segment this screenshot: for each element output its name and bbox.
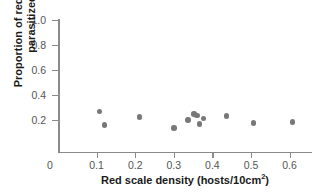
data-point: [137, 114, 143, 120]
data-point: [171, 125, 177, 131]
y-axis-title-line2: parasitized: [25, 0, 38, 98]
data-point: [185, 117, 191, 123]
data-point: [201, 116, 207, 122]
data-point: [290, 119, 296, 125]
x-axis-title-tail: ): [265, 174, 269, 186]
scatter-chart-figure: 0.20.40.60.81.0 0.10.20.30.40.50.6 0 Red…: [0, 0, 316, 193]
data-point: [194, 113, 200, 119]
data-point: [197, 121, 203, 127]
data-point: [97, 109, 103, 115]
y-axis-title: Proportion of red scales parasitized: [12, 0, 40, 98]
data-point: [102, 122, 108, 128]
data-point: [251, 120, 257, 126]
x-axis-title-base: Red scale density (hosts/10cm: [101, 174, 261, 186]
y-axis-title-line1: Proportion of red scales: [12, 0, 24, 87]
plot-area: [0, 0, 316, 193]
data-point: [224, 113, 230, 119]
x-axis-title: Red scale density (hosts/10cm2): [58, 174, 312, 186]
